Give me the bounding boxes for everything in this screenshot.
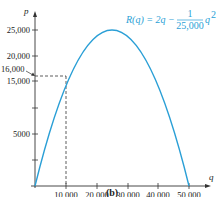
caption-layer: (b) <box>0 0 217 197</box>
figure-caption: (b) <box>106 187 118 197</box>
